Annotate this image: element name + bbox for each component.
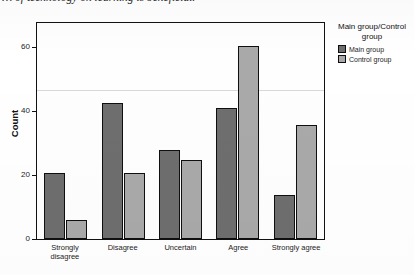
legend-item-label: Main group	[349, 46, 384, 53]
y-tick-label-40: 40	[21, 105, 30, 116]
legend-item: Main group	[338, 45, 412, 53]
bar	[216, 108, 237, 239]
bar	[274, 195, 295, 239]
figure-caption: … of technology on learning is beneficia…	[0, 0, 300, 9]
x-axis-labels: Strongly disagreeDisagreeUncertainAgreeS…	[36, 243, 325, 273]
y-axis-title: Count	[9, 94, 20, 154]
y-tick-20: 20	[0, 175, 36, 176]
y-tick-60: 60	[0, 47, 36, 48]
figure-caption-text: … of technology on learning is beneficia…	[2, 0, 195, 3]
bar	[124, 173, 145, 239]
bar-group	[37, 23, 94, 239]
y-tick-0: 0	[0, 239, 36, 240]
bar-group	[267, 23, 324, 239]
legend: Main group/Control group Main groupContr…	[332, 22, 412, 65]
x-axis-label: Uncertain	[152, 243, 210, 273]
y-axis: Count 0 20 40 60	[0, 22, 36, 240]
legend-items: Main groupControl group	[332, 45, 412, 63]
legend-title: Main group/Control group	[332, 22, 412, 41]
legend-swatch	[338, 45, 346, 53]
bar	[102, 103, 123, 239]
legend-swatch	[338, 55, 346, 63]
bar	[44, 173, 65, 239]
y-tick-label-20: 20	[21, 169, 30, 180]
y-tick-label-60: 60	[21, 41, 30, 52]
x-axis-label: Strongly disagree	[36, 243, 94, 273]
bar	[66, 220, 87, 239]
bar-group	[209, 23, 266, 239]
bar	[238, 46, 259, 239]
plot-area	[36, 22, 325, 240]
bar	[181, 160, 202, 239]
plot-inner	[37, 23, 324, 239]
y-tick-label-0: 0	[26, 233, 30, 244]
legend-item-label: Control group	[349, 56, 391, 63]
bar	[296, 125, 317, 239]
bar-series-container	[37, 23, 324, 239]
bar-group	[94, 23, 151, 239]
x-axis-label: Disagree	[94, 243, 152, 273]
y-tick-40: 40	[0, 111, 36, 112]
x-axis-label: Agree	[209, 243, 267, 273]
legend-item: Control group	[338, 55, 412, 63]
x-axis-label: Strongly agree	[267, 243, 325, 273]
bar	[159, 150, 180, 239]
bar-group	[152, 23, 209, 239]
